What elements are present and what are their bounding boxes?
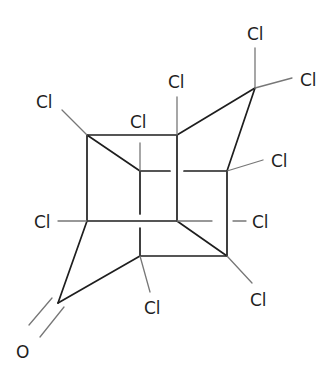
bond-e-q (58, 221, 87, 303)
bond-b-k (177, 88, 255, 135)
cl-label: Cl (250, 290, 267, 310)
bond-h-q (58, 256, 140, 303)
co-bond-2 (40, 307, 64, 337)
bond-a-d (87, 135, 140, 171)
bond-k-c (227, 88, 255, 171)
bond-f-g (177, 221, 227, 256)
cl-label: Cl (34, 212, 51, 232)
bond-h-cl (140, 256, 150, 292)
cl-label: Cl (300, 70, 317, 90)
bond-g-cl (227, 256, 252, 283)
bond-k-cl2 (255, 78, 292, 88)
cl-label: Cl (252, 212, 269, 232)
co-bond-1 (29, 298, 52, 325)
cl-label: Cl (144, 298, 161, 318)
cage-bonds (58, 88, 255, 303)
carbonyl-double-bond (29, 298, 64, 337)
bond-a-cl (62, 110, 87, 135)
chemical-structure: Cl Cl Cl Cl Cl Cl Cl Cl Cl Cl O (0, 0, 336, 379)
cl-label: Cl (247, 24, 264, 44)
bond-c-cl (227, 160, 263, 171)
cl-label: Cl (168, 72, 185, 92)
cl-label: Cl (271, 151, 288, 171)
oxygen-label: O (16, 342, 29, 362)
cl-label: Cl (130, 112, 147, 132)
cl-label: Cl (36, 92, 53, 112)
